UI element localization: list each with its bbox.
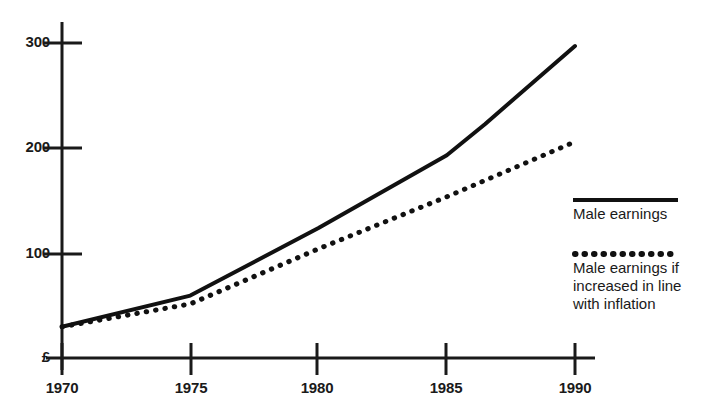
x-tick-label-1970: 1970 (32, 379, 92, 396)
y-axis-currency-label: £ (0, 348, 50, 365)
x-tick-label-1980: 1980 (287, 379, 347, 396)
y-tick-label-200: 200 (0, 138, 50, 155)
x-tick-label-1975: 1975 (161, 379, 221, 396)
series-line-inflation-adjusted (62, 142, 575, 327)
chart-figure: 300 200 100 £ 1970 1975 1980 1985 1990 M… (0, 0, 706, 412)
y-tick-label-100: 100 (0, 244, 50, 261)
legend-label-inflation-line-2: increased in line (573, 277, 681, 295)
legend-label-inflation-line-3: with inflation (573, 295, 656, 313)
y-tick-label-300: 300 (0, 33, 50, 50)
legend-label-inflation-line-1: Male earnings if (573, 259, 679, 277)
x-tick-label-1985: 1985 (416, 379, 476, 396)
legend-label-male-earnings: Male earnings (573, 205, 667, 223)
series-line-male-earnings (62, 46, 575, 327)
x-tick-label-1990: 1990 (545, 379, 605, 396)
